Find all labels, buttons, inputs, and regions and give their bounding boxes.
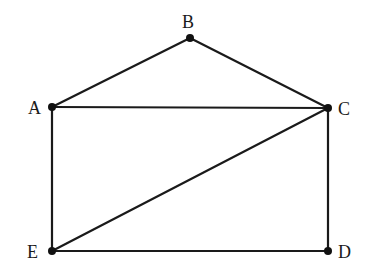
edge-ec: [52, 108, 328, 251]
node-b: [186, 34, 194, 42]
node-a: [48, 103, 56, 111]
edge-ac: [52, 107, 328, 108]
node-e: [48, 247, 56, 255]
node-label-b: B: [182, 12, 194, 32]
edges-group: [52, 38, 328, 251]
edge-ab: [52, 38, 190, 107]
node-label-c: C: [338, 99, 350, 119]
node-c: [324, 104, 332, 112]
node-label-a: A: [28, 98, 41, 118]
labels-group: ABCDE: [27, 12, 351, 262]
nodes-group: [48, 34, 332, 255]
node-d: [324, 247, 332, 255]
graph-diagram: ABCDE: [0, 0, 365, 269]
node-label-e: E: [27, 242, 38, 262]
edge-bc: [190, 38, 328, 108]
node-label-d: D: [338, 242, 351, 262]
